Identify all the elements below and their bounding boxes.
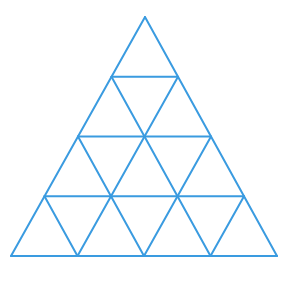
diagonal-line [211,196,245,256]
triangle-grid [11,17,277,256]
diagonal-line [45,196,78,256]
diagonal-line [112,77,211,256]
subdivided-triangle-diagram [0,0,303,284]
diagonal-line [78,77,179,256]
